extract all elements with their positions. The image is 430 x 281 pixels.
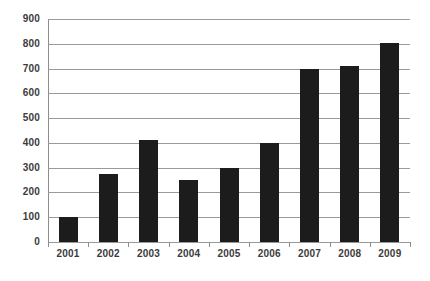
y-tick-label-200: 200 — [0, 187, 40, 197]
y-tick-label-0: 0 — [0, 237, 40, 247]
x-tick-4 — [209, 242, 210, 247]
x-tick-6 — [289, 242, 290, 247]
bar-2005[interactable] — [220, 168, 239, 242]
x-tick-label-2008: 2008 — [328, 249, 372, 259]
y-tick-label-100: 100 — [0, 212, 40, 222]
bar-2008[interactable] — [340, 66, 359, 242]
bar-2007[interactable] — [300, 69, 319, 242]
x-tick-label-2001: 2001 — [46, 249, 90, 259]
y-tick-label-500: 500 — [0, 113, 40, 123]
x-tick-5 — [249, 242, 250, 247]
x-tick-3 — [169, 242, 170, 247]
x-tick-label-2005: 2005 — [207, 249, 251, 259]
bar-2002[interactable] — [99, 174, 118, 242]
x-tick-label-2009: 2009 — [368, 249, 412, 259]
y-tick-label-400: 400 — [0, 138, 40, 148]
gridline-0 — [48, 242, 410, 243]
y-tick-label-700: 700 — [0, 64, 40, 74]
x-tick-label-2002: 2002 — [86, 249, 130, 259]
y-tick-label-300: 300 — [0, 163, 40, 173]
x-tick-label-2003: 2003 — [127, 249, 171, 259]
x-tick-8 — [370, 242, 371, 247]
y-tick-label-600: 600 — [0, 88, 40, 98]
x-tick-label-2006: 2006 — [247, 249, 291, 259]
x-tick-1 — [88, 242, 89, 247]
x-tick-label-2004: 2004 — [167, 249, 211, 259]
bar-2003[interactable] — [139, 140, 158, 242]
plot-area — [48, 19, 410, 242]
y-tick-label-800: 800 — [0, 39, 40, 49]
gridline-800 — [48, 44, 410, 45]
gridline-900 — [48, 19, 410, 20]
x-tick-7 — [330, 242, 331, 247]
bar-2004[interactable] — [179, 180, 198, 242]
bar-2001[interactable] — [59, 217, 78, 242]
bar-2009[interactable] — [380, 43, 399, 242]
y-tick-label-900: 900 — [0, 14, 40, 24]
x-tick-2 — [128, 242, 129, 247]
x-tick-label-2007: 2007 — [287, 249, 331, 259]
x-tick-end — [410, 242, 411, 247]
x-tick-0 — [48, 242, 49, 247]
bar-chart: 9008007006005004003002001000 20012002200… — [0, 0, 430, 281]
bar-2006[interactable] — [260, 143, 279, 242]
